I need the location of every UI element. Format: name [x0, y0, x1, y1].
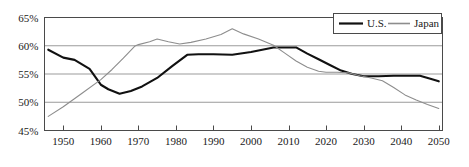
- chart-container: 45%50%55%60%65% 195019601970198019902000…: [0, 0, 469, 167]
- x-axis-label-1980: 1980: [165, 135, 188, 147]
- x-axis-label-1970: 1970: [127, 135, 150, 147]
- x-axis-label-1990: 1990: [202, 135, 225, 147]
- x-axis-label-1960: 1960: [90, 135, 113, 147]
- y-axis-label-65: 65%: [18, 12, 38, 24]
- x-axis-label-2010: 2010: [278, 135, 301, 147]
- y-axis-label-45: 45%: [18, 125, 38, 137]
- x-axis-label-1950: 1950: [52, 135, 75, 147]
- y-axis-label-55: 55%: [18, 68, 38, 80]
- y-axis-label-60: 60%: [18, 40, 38, 52]
- x-axis-label-2000: 2000: [240, 135, 263, 147]
- legend-label-japan: Japan: [414, 17, 440, 29]
- x-axis-label-2030: 2030: [353, 135, 376, 147]
- x-axis-label-2050: 2050: [428, 135, 451, 147]
- chart-legend[interactable]: U.S. Japan: [334, 14, 442, 34]
- line-chart: 45%50%55%60%65% 195019601970198019902000…: [0, 0, 469, 167]
- y-axis-label-50: 50%: [18, 96, 38, 108]
- x-axis-label-2040: 2040: [390, 135, 413, 147]
- legend-label-us: U.S.: [367, 17, 387, 29]
- x-axis-label-2020: 2020: [315, 135, 338, 147]
